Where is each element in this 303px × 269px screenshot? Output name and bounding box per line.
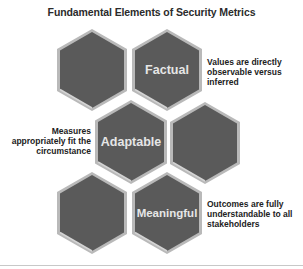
description-line: circumstance [0,146,91,156]
description-line: understandable to all [207,209,303,219]
description-line: appropriately fit the [0,136,91,146]
hexagon-meaningful: Meaningful [132,172,202,254]
description-factual: Values are directly observable versus in… [207,57,303,87]
diagram-title: Fundamental Elements of Security Metrics [0,6,303,18]
description-line: Outcomes are fully [207,199,303,209]
description-line: observable versus [207,67,303,77]
hexagon-shape [57,172,127,254]
description-line: Measures [0,126,91,136]
hexagon-label-factual: Factual [132,63,202,77]
description-line: stakeholders [207,219,303,229]
description-meaningful: Outcomes are fully understandable to all… [207,199,303,229]
hexagon-label-adaptable: Adaptable [95,135,167,149]
hexagon-factual: Factual [132,29,202,111]
hexagon-blank-bottom-left [57,172,127,254]
description-line: inferred [207,77,303,87]
bottom-divider [0,265,303,266]
description-adaptable: Measures appropriately fit the circumsta… [0,126,91,156]
hexagon-label-meaningful: Meaningful [132,207,202,219]
hexagon-blank-top-left [57,29,127,111]
hexagon-shape [57,29,127,111]
description-line: Values are directly [207,57,303,67]
